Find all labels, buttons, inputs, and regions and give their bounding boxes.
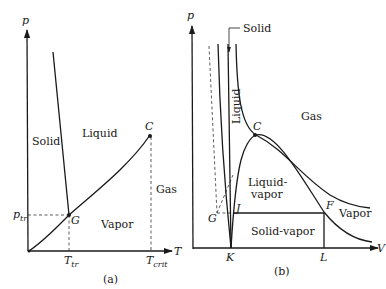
phase-diagrams: p T Solid Liquid Vapor Gas C G ptr Ttr T…	[0, 0, 386, 289]
region-liquid-vapor-2: vapor	[250, 188, 283, 201]
p-axis-label-b: p	[187, 9, 194, 22]
label-J: J	[234, 202, 241, 215]
label-K: K	[225, 251, 235, 264]
T-crit-label: Tcrit	[146, 254, 168, 269]
V-axis-label: V	[377, 242, 386, 255]
p-tr-label: ptr	[13, 208, 28, 223]
label-L: L	[319, 251, 327, 264]
fusion-curve	[53, 52, 69, 215]
region-gas-b: Gas	[301, 110, 322, 123]
critical-point	[148, 134, 152, 138]
p-axis-b	[192, 26, 193, 249]
region-liquid-b: Liquid	[230, 88, 243, 124]
caption-b: (b)	[274, 265, 290, 278]
p-axis-label: p	[22, 14, 29, 27]
label-G: G	[71, 214, 80, 227]
label-F: F	[325, 199, 334, 212]
panel-a-pT-diagram: p T Solid Liquid Vapor Gas C G ptr Ttr T…	[13, 14, 183, 286]
label-G-b: G	[208, 212, 217, 225]
region-solid-b: Solid	[243, 22, 271, 35]
T-tr-label: Ttr	[64, 254, 80, 269]
critical-point-b	[253, 133, 257, 137]
T-axis-label: T	[174, 245, 183, 258]
label-C-b: C	[253, 120, 262, 133]
region-solid-vapor: Solid-vapor	[251, 225, 315, 238]
solid-leader-arrow	[229, 28, 240, 52]
caption-a: (a)	[103, 273, 118, 286]
p-axis	[27, 30, 28, 251]
region-solid: Solid	[32, 135, 60, 148]
panel-b-pV-diagram: p V Solid Liquid Gas Liquid- vapor Vapor	[187, 9, 386, 278]
dashed-solid-extension	[209, 46, 217, 213]
label-C: C	[145, 120, 154, 133]
region-liquid: Liquid	[82, 127, 118, 140]
region-gas: Gas	[156, 183, 177, 196]
region-vapor-b: Vapor	[338, 207, 372, 220]
region-vapor: Vapor	[100, 218, 134, 231]
coexistence-curve-vapor	[29, 135, 150, 251]
origin-point	[28, 250, 31, 253]
